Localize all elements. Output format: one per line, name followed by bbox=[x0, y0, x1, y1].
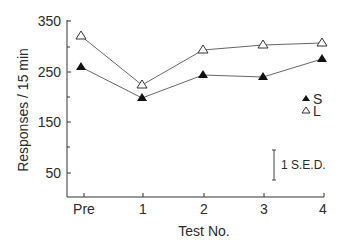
legend-l-icon bbox=[302, 107, 310, 113]
legend: S L bbox=[302, 91, 322, 119]
open-triangle-marker bbox=[137, 80, 147, 88]
xtick-3: 3 bbox=[260, 201, 268, 217]
open-triangle-marker bbox=[76, 31, 86, 39]
x-axis-title: Test No. bbox=[178, 223, 229, 239]
filled-triangle-marker bbox=[76, 62, 86, 70]
legend-l-label: L bbox=[313, 103, 321, 119]
legend-s-icon bbox=[302, 95, 310, 101]
y-axis-title: Responses / 15 min bbox=[15, 48, 31, 172]
sed-bar: 1 S.E.D. bbox=[272, 150, 326, 180]
open-triangle-marker bbox=[198, 45, 208, 53]
open-triangle-marker bbox=[317, 38, 327, 46]
chart: 350 250 150 50 Pre 1 2 3 4 Test No. Resp… bbox=[0, 0, 342, 243]
sed-label: 1 S.E.D. bbox=[281, 158, 326, 172]
filled-triangle-marker bbox=[317, 54, 327, 62]
ytick-350: 350 bbox=[38, 13, 62, 29]
series-l bbox=[76, 31, 327, 88]
xtick-4: 4 bbox=[319, 201, 327, 217]
xtick-2: 2 bbox=[200, 201, 208, 217]
xtick-pre: Pre bbox=[73, 201, 95, 217]
xtick-1: 1 bbox=[139, 201, 147, 217]
ytick-150: 150 bbox=[38, 114, 62, 130]
ytick-250: 250 bbox=[38, 64, 62, 80]
open-triangle-marker bbox=[258, 40, 268, 48]
ytick-50: 50 bbox=[45, 165, 61, 181]
series-s bbox=[76, 54, 327, 101]
filled-triangle-marker bbox=[198, 70, 208, 78]
